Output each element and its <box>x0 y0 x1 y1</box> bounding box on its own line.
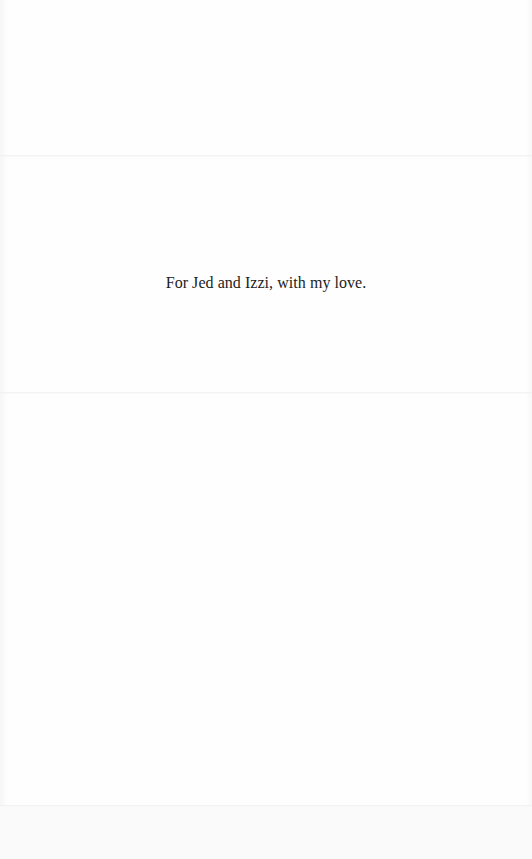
dedication-text: For Jed and Izzi, with my love. <box>0 273 532 293</box>
page-edge-left <box>0 0 8 859</box>
paper-fold-line <box>0 392 532 394</box>
book-page: For Jed and Izzi, with my love. <box>0 0 532 859</box>
paper-fold-line <box>0 155 532 157</box>
paper-fold-line <box>0 805 532 807</box>
page-edge-right <box>526 0 532 859</box>
page-bottom-shade <box>0 806 532 859</box>
